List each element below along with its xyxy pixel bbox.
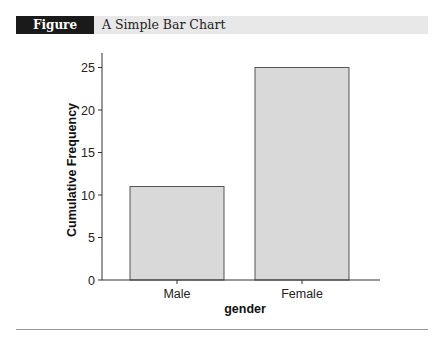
x-axis: MaleFemale [102, 280, 380, 301]
y-tick-label: 10 [81, 189, 95, 203]
x-tick-label: Female [281, 287, 323, 301]
y-tick-label: 0 [88, 274, 95, 288]
bottom-rule [16, 329, 428, 330]
y-tick-label: 25 [81, 61, 95, 75]
y-axis-label: Cumulative Frequency [65, 103, 79, 237]
x-axis-label: gender [224, 302, 266, 316]
y-tick-label: 5 [88, 231, 95, 245]
y-tick-label: 15 [81, 146, 95, 160]
y-tick-label: 20 [81, 104, 95, 118]
bars [130, 68, 349, 281]
y-axis: 0510152025 [81, 53, 102, 288]
bar-chart: 0510152025 MaleFemale Cumulative Frequen… [0, 0, 446, 341]
bar-female [255, 68, 349, 281]
x-tick-label: Male [163, 287, 190, 301]
bar-male [130, 187, 224, 281]
